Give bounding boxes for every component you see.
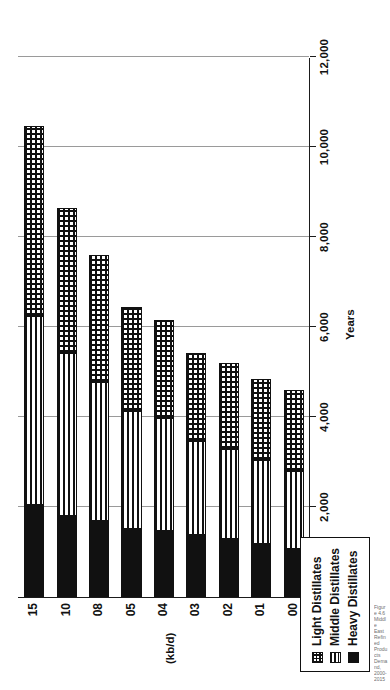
bar-01 <box>251 379 271 597</box>
bar-10 <box>57 208 77 597</box>
segment-middle-08 <box>89 382 109 520</box>
value-axis-tick <box>310 236 316 237</box>
segment-light-15 <box>24 126 44 316</box>
category-label-02: 02 <box>221 603 235 627</box>
value-axis-tick <box>310 146 316 147</box>
value-axis-title: (kb/d) <box>164 633 176 664</box>
bar-15 <box>24 126 44 597</box>
value-axis-tick <box>310 416 316 417</box>
value-axis-tick <box>310 326 316 327</box>
bar-02 <box>219 363 239 597</box>
segment-heavy-01 <box>251 543 271 597</box>
solid-black-swatch <box>348 652 359 663</box>
segment-middle-15 <box>24 316 44 504</box>
chart-canvas: (kb/d) Years 02,0004,0006,0008,00010,000… <box>0 0 390 690</box>
category-label-10: 10 <box>59 603 73 627</box>
legend-item-2: Heavy Distillates <box>344 548 362 663</box>
segment-middle-02 <box>219 449 239 538</box>
bar-08 <box>89 255 109 597</box>
bar-04 <box>154 320 174 597</box>
category-label-04: 04 <box>156 603 170 627</box>
segment-heavy-04 <box>154 530 174 597</box>
plot-area: 02,0004,0006,0008,00010,00012,000 000102… <box>18 58 310 598</box>
segment-middle-01 <box>251 460 271 543</box>
value-axis-tick <box>310 56 316 57</box>
legend-label-2: Heavy Distillates <box>346 551 360 646</box>
segment-middle-04 <box>154 418 174 530</box>
segment-heavy-03 <box>186 534 206 597</box>
segment-heavy-15 <box>24 504 44 597</box>
segment-middle-10 <box>57 353 77 515</box>
category-axis-title: Years <box>344 309 356 340</box>
segment-light-04 <box>154 320 174 418</box>
segment-light-03 <box>186 353 206 441</box>
segment-light-05 <box>121 307 141 411</box>
legend-item-1: Middle Distillates <box>326 548 344 663</box>
value-axis-tick-label: 12,000 <box>318 39 330 75</box>
legend-label-0: Light Distillates <box>310 557 324 646</box>
value-axis-tick-label: 2,000 <box>318 492 330 522</box>
value-axis-tick-label: 8,000 <box>318 222 330 252</box>
value-axis-tick-label: 4,000 <box>318 402 330 432</box>
figure-caption: Figure 4.6 Middle East Refined Products … <box>374 604 388 682</box>
segment-heavy-08 <box>89 520 109 597</box>
segment-middle-03 <box>186 441 206 535</box>
legend-item-0: Light Distillates <box>308 548 326 663</box>
chart-legend: Light DistillatesMiddle DistillatesHeavy… <box>300 537 370 672</box>
segment-light-08 <box>89 255 109 382</box>
category-label-05: 05 <box>124 603 138 627</box>
category-label-01: 01 <box>253 603 267 627</box>
gridline <box>18 56 309 57</box>
bar-05 <box>121 307 141 597</box>
segment-heavy-10 <box>57 515 77 597</box>
segment-heavy-05 <box>121 528 141 597</box>
segment-light-01 <box>251 379 271 460</box>
grid-hatch-swatch <box>312 652 323 663</box>
segment-heavy-02 <box>219 538 239 597</box>
segment-light-00 <box>284 390 304 471</box>
value-axis-tick <box>310 506 316 507</box>
gridline <box>18 146 309 147</box>
category-label-08: 08 <box>91 603 105 627</box>
value-axis-tick-label: 6,000 <box>318 312 330 342</box>
category-label-15: 15 <box>26 603 40 627</box>
horizontal-line-swatch <box>330 652 341 663</box>
legend-label-1: Middle Distillates <box>328 548 342 646</box>
category-label-00: 00 <box>286 603 300 627</box>
segment-light-02 <box>219 363 239 449</box>
value-axis-tick-label: 10,000 <box>318 129 330 165</box>
bar-03 <box>186 353 206 597</box>
segment-light-10 <box>57 208 77 353</box>
segment-middle-05 <box>121 411 141 528</box>
category-label-03: 03 <box>188 603 202 627</box>
